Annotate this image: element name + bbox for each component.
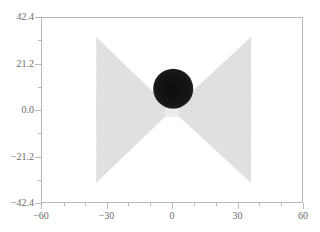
xtick-label-2: 0 [152, 211, 192, 221]
ytick-minor-2 [38, 87, 41, 88]
ytick-major-2 [35, 64, 41, 65]
xtick-minor-3 [128, 203, 129, 206]
xtick-minor-2 [85, 203, 86, 206]
xtick-major-3 [172, 203, 173, 209]
xtick-minor-8 [281, 203, 282, 206]
ytick-minor-4 [38, 180, 41, 181]
xtick-label-4: 60 [283, 211, 320, 221]
ytick-major-3 [35, 110, 41, 111]
xtick-label-1: −30 [87, 211, 127, 221]
xtick-minor-5 [194, 203, 195, 206]
xtick-label-3: 30 [218, 211, 258, 221]
scatter-right-wing-lower [172, 101, 251, 183]
ytick-label-0: 42.4 [0, 12, 34, 22]
ytick-label-3: −21.2 [0, 152, 34, 162]
ytick-label-2: 0.0 [0, 105, 34, 115]
data-layer [42, 18, 302, 202]
ytick-label-1: 21.2 [0, 59, 34, 69]
dense-core-disc [153, 69, 193, 109]
xtick-minor-6 [216, 203, 217, 206]
ytick-major-4 [35, 157, 41, 158]
xtick-minor-7 [259, 203, 260, 206]
xtick-minor-1 [64, 203, 65, 206]
ytick-major-1 [35, 17, 41, 18]
scatter-left-wing-lower [96, 101, 172, 183]
figure: 42.4 21.2 0.0 −21.2 −42.4 −60 −30 0 30 6… [0, 0, 320, 232]
xtick-major-1 [41, 203, 42, 209]
xtick-major-4 [238, 203, 239, 209]
ytick-label-4: −42.4 [0, 198, 34, 208]
plot-area[interactable] [41, 17, 303, 203]
xtick-label-0: −60 [21, 211, 61, 221]
xtick-minor-4 [150, 203, 151, 206]
scatter-canvas [42, 18, 302, 202]
ytick-minor-3 [38, 133, 41, 134]
xtick-major-2 [107, 203, 108, 209]
ytick-minor-1 [38, 40, 41, 41]
xtick-major-5 [303, 203, 304, 209]
